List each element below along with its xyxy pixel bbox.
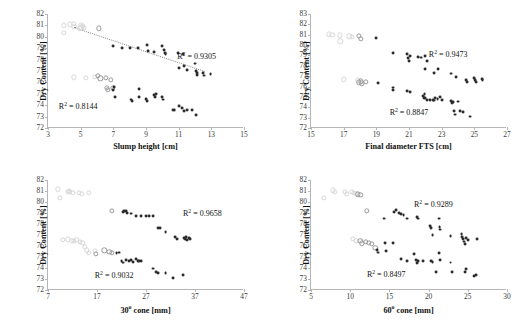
x-tick-mark [429,289,430,292]
x-tick-label: 15 [386,293,393,300]
y-tick-label: 73 [300,275,307,282]
data-point [449,235,452,238]
data-point [463,271,466,274]
panel-bottom-right: 72737475767778798081825101520253060o con… [0,0,527,335]
data-point [465,268,468,271]
x-tick-label: 5 [309,293,313,300]
data-point [431,260,434,263]
x-tick-label: 20 [425,293,432,300]
data-point [449,261,452,264]
data-point [377,251,380,254]
data-point [406,217,409,220]
data-point [402,214,405,217]
data-point [321,195,326,200]
x-axis-title: 60o cone [mm] [383,304,433,315]
x-tick-label: 25 [464,293,471,300]
data-point [451,271,454,274]
data-point [416,217,419,220]
y-tick-label: 81 [300,187,307,194]
x-tick-label: 30 [503,293,510,300]
x-tick-mark [350,289,351,292]
y-tick-label: 82 [300,176,307,183]
x-tick-mark [389,289,390,292]
plot-area-bottom-right: 72737475767778798081825101520253060o con… [310,180,506,290]
data-point [437,252,440,255]
data-point [416,260,419,263]
data-point [439,259,442,262]
x-tick-label: 10 [346,293,353,300]
data-point [429,227,432,230]
r-squared-annotation: R2 = 0.8497 [367,268,406,279]
data-point [431,234,434,237]
data-point [466,238,469,241]
data-point [358,192,363,197]
data-point [476,238,479,241]
y-axis-title: Dry Content [%] [302,205,311,265]
data-point [385,249,388,252]
data-point [463,242,466,245]
y-tick-label: 72 [300,286,307,293]
data-point [475,274,478,277]
figure-scatter-grid: 72737475767778798081823579111315Slump he… [0,0,527,335]
data-point [435,271,438,274]
data-point [392,241,395,244]
data-point [422,260,425,263]
data-point [364,208,369,213]
data-point [332,189,337,194]
data-layer-bottom-right: R2 = 0.9289R2 = 0.8497 [311,180,506,289]
data-point [437,217,440,220]
y-tick-label: 74 [300,264,307,271]
data-point [406,260,409,263]
data-point [383,241,386,244]
data-point [413,252,416,255]
r-squared-annotation: R2 = 0.9289 [414,199,453,210]
data-point [400,257,403,260]
x-tick-mark [507,289,508,292]
data-point [439,228,442,231]
x-tick-mark [468,289,469,292]
data-point [382,217,385,220]
x-tick-mark [311,289,312,292]
